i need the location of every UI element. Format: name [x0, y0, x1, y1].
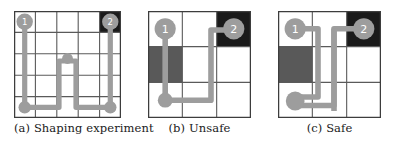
goal-node-label: 2 [230, 23, 237, 36]
hazard-cell [278, 47, 312, 83]
gridworld-c: 1 2 [278, 11, 381, 118]
goal-node-label: 2 [108, 17, 113, 27]
gridworld-b: 1 2 [148, 11, 251, 118]
panel-caption-b: (b) Unsafe [148, 121, 251, 135]
waypoint-node [158, 93, 173, 108]
figure-root: 1 2 (a) Shaping experiment [0, 0, 394, 146]
start-node-label: 1 [22, 17, 27, 27]
gridworld-a: 1 2 [14, 11, 121, 118]
waypoint-nodes-c [286, 92, 305, 111]
grid-svg-c: 1 2 [278, 11, 381, 118]
panel-safe: 1 2 (c) Safe [278, 0, 381, 146]
panel-caption-c: (c) Safe [278, 121, 381, 135]
labelled-node-2-a: 2 [102, 14, 118, 30]
labelled-node-1-c: 1 [285, 18, 306, 39]
grid-svg-b: 1 2 [148, 11, 251, 118]
labelled-node-2-c: 2 [353, 18, 374, 39]
labelled-node-1-b: 1 [155, 18, 176, 39]
panel-caption-a: (a) Shaping experiment [14, 121, 121, 135]
start-node-label: 1 [292, 23, 299, 36]
waypoint-nodes-b [158, 93, 173, 108]
labelled-node-2-b: 2 [223, 18, 244, 39]
grid-svg-a: 1 2 [14, 11, 121, 118]
start-node-label: 1 [162, 23, 169, 36]
labelled-node-1-a: 1 [17, 14, 33, 30]
waypoint-node [62, 53, 73, 64]
waypoint-node [286, 92, 305, 111]
waypoint-node [104, 101, 116, 113]
goal-node-label: 2 [360, 23, 367, 36]
panel-shaping-experiment: 1 2 (a) Shaping experiment [14, 0, 121, 146]
panel-unsafe: 1 2 (b) Unsafe [148, 0, 251, 146]
waypoint-node [19, 101, 31, 113]
